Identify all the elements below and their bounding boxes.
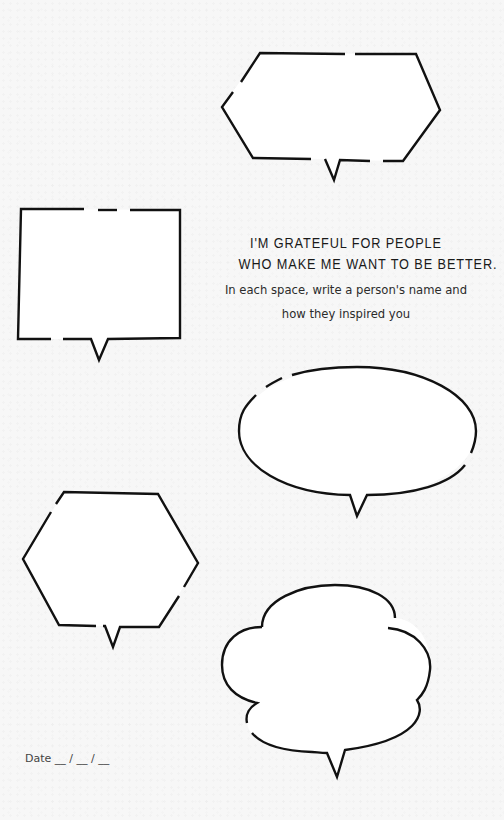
subtitle-line-1: In each space, write a person's name and (215, 278, 477, 302)
speech-bubbles-layer (0, 0, 504, 820)
subtitle-line-2: how they inspired you (215, 302, 477, 326)
title-line-1: I'M GRATEFUL FOR PEOPLE (239, 232, 454, 253)
journal-page: I'M GRATEFUL FOR PEOPLE WHO MAKE ME WANT… (0, 0, 504, 820)
speech-bubble-hexagon-wide[interactable] (222, 53, 440, 180)
speech-bubble-oval[interactable] (239, 367, 476, 516)
date-field[interactable]: Date __ / __ / __ (25, 752, 109, 765)
title-line-2: WHO MAKE ME WANT TO BE BETTER. (239, 253, 454, 274)
speech-bubble-cloud[interactable] (222, 585, 430, 777)
prompt-heading: I'M GRATEFUL FOR PEOPLE WHO MAKE ME WANT… (215, 232, 477, 326)
speech-bubble-hexagon[interactable] (23, 492, 198, 647)
speech-bubble-rectangle[interactable] (18, 209, 180, 360)
